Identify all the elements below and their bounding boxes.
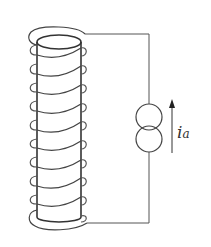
circuit-wires (85, 34, 149, 223)
current-source-symbol (136, 104, 162, 152)
cylinder-core (37, 35, 81, 222)
current-label: ia (177, 122, 190, 142)
coil-left-bumps (30, 45, 37, 204)
current-subscript: a (182, 127, 189, 141)
coil-front-strands (37, 48, 81, 206)
current-arrow-icon (169, 99, 175, 153)
